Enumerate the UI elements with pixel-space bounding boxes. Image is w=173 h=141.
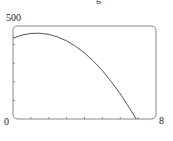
data-curve: [13, 33, 136, 119]
y-max-label: 500: [6, 13, 21, 23]
clipped-title-fragment: g: [96, 0, 101, 4]
plot-frame: [13, 26, 156, 119]
x-max-label: 8: [159, 116, 164, 126]
origin-label: 0: [4, 117, 9, 127]
chart: [0, 0, 173, 141]
